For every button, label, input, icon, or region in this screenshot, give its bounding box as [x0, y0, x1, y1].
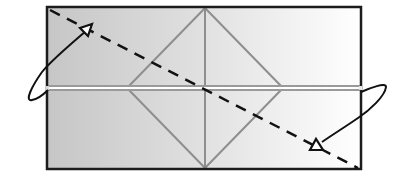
- diagram-canvas: [0, 0, 408, 179]
- origami-diagram: Origami fold diagram: [0, 0, 408, 179]
